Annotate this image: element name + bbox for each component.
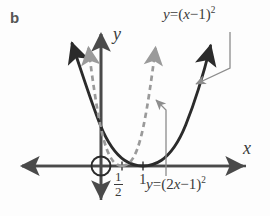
- equation-label-inner-parabola: y=(2x−1)2: [146, 176, 206, 192]
- x-axis-label: x: [243, 139, 251, 157]
- eq-inner-minus: −: [180, 176, 188, 192]
- curve-inner-parabola: [89, 48, 156, 166]
- eq-inner-equals: =: [153, 176, 161, 192]
- eq-inner-y: y: [146, 176, 153, 192]
- fraction-one-half: 1 2: [114, 170, 123, 198]
- curve-outer-left-arm: [72, 44, 143, 167]
- part-label: b: [10, 10, 19, 25]
- leader-inner-label: [156, 100, 166, 176]
- x-tick-label-one-half: 1 2: [114, 170, 123, 198]
- parabola-figure: [0, 0, 270, 216]
- eq-inner-exponent: 2: [201, 175, 206, 185]
- figure-container: b y x 1 2 1 y=(x−1)2 y=(2x−1)2: [0, 0, 270, 216]
- eq-outer-exponent: 2: [211, 5, 216, 15]
- fraction-numerator: 1: [114, 170, 123, 185]
- equation-label-outer-parabola: y=(x−1)2: [163, 6, 215, 22]
- eq-inner-coefficient: 2: [166, 176, 174, 192]
- curve-outer-parabola: [72, 44, 211, 167]
- eq-outer-minus: −: [190, 6, 198, 22]
- curve-outer-right-arm: [143, 46, 211, 166]
- eq-outer-constant: 1: [198, 6, 206, 22]
- y-axis-label: y: [113, 25, 121, 43]
- eq-outer-y: y: [163, 6, 170, 22]
- eq-outer-variable: x: [183, 6, 190, 22]
- curve-inner-right-arm: [122, 48, 156, 166]
- fraction-denominator: 2: [114, 185, 123, 199]
- axes-group: [22, 34, 246, 200]
- eq-outer-equals: =: [170, 6, 178, 22]
